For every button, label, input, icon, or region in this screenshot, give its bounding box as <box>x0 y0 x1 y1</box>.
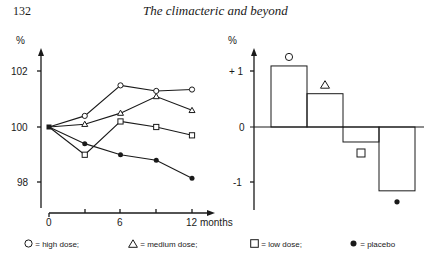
bar-low-dose <box>343 127 379 142</box>
filled-circle-icon <box>394 199 399 204</box>
left-y-tick-102: 102 <box>11 66 28 77</box>
series-line-low-dose <box>49 121 192 154</box>
filled-circle-marker-icon <box>190 176 195 181</box>
open-circle-icon <box>24 239 33 248</box>
bar-medium-dose <box>307 94 343 127</box>
legend-label: = low dose; <box>261 240 302 249</box>
open-triangle-marker-icon <box>153 93 159 98</box>
legend-label: = high dose; <box>35 240 79 249</box>
filled-circle-icon <box>349 239 358 248</box>
left-x-tick-0: 0 <box>46 217 52 228</box>
left-chart-axes <box>37 48 215 217</box>
filled-circle-marker-icon <box>118 152 123 157</box>
legend-item-low-dose: = low dose; <box>250 239 302 249</box>
open-square-icon <box>250 239 259 248</box>
left-y-tick-98: 98 <box>17 177 29 188</box>
left-x-tick-6: 6 <box>117 217 123 228</box>
open-circle-marker-icon <box>154 88 159 93</box>
legend-label: = placebo <box>360 240 395 249</box>
open-square-marker-icon <box>154 124 159 129</box>
right-y-tick-minus1: -1 <box>233 177 242 188</box>
legend-label: = medium dose; <box>140 240 197 249</box>
legend-item-medium-dose: = medium dose; <box>128 239 197 249</box>
open-circle-icon <box>285 53 292 60</box>
filled-circle-marker-icon <box>154 158 159 163</box>
right-y-unit: % <box>228 35 237 46</box>
right-chart-bars <box>271 53 415 204</box>
open-square-marker-icon <box>118 119 123 124</box>
charts-figure: % 102 100 98 0 6 12 months % + 1 0 -1 <box>0 0 432 265</box>
right-y-tick-0: 0 <box>239 122 245 133</box>
left-y-unit: % <box>16 35 25 46</box>
bar-high-dose <box>271 66 307 127</box>
open-circle-marker-icon <box>118 83 123 88</box>
origin-marker-icon <box>47 125 52 130</box>
filled-circle-marker-icon <box>82 141 87 146</box>
open-square-marker-icon <box>189 133 194 138</box>
left-chart-series <box>47 83 196 181</box>
left-y-tick-100: 100 <box>11 122 28 133</box>
open-circle-marker-icon <box>82 113 87 118</box>
legend-item-placebo: = placebo <box>349 239 395 249</box>
left-x-tick-12: 12 months <box>186 217 233 228</box>
bar-placebo <box>379 127 415 191</box>
legend-item-high-dose: = high dose; <box>24 239 79 249</box>
open-triangle-icon <box>128 239 138 248</box>
open-square-marker-icon <box>82 152 87 157</box>
open-circle-marker-icon <box>189 87 194 92</box>
right-y-tick-plus1: + 1 <box>229 66 244 77</box>
open-square-icon <box>357 149 365 157</box>
right-chart-axes <box>250 48 424 210</box>
open-triangle-icon <box>321 81 330 89</box>
